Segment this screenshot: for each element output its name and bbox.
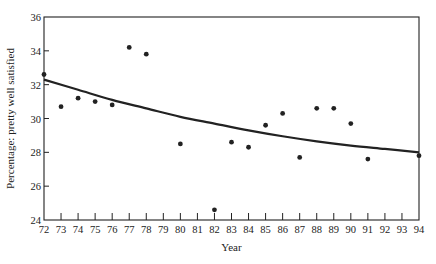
x-tick-label: 78	[141, 224, 152, 235]
data-point	[246, 145, 251, 150]
data-point	[127, 45, 132, 50]
plot-border	[44, 17, 419, 220]
scatter-chart: 24262830323436 7273747576777879808182838…	[0, 0, 436, 264]
data-point	[110, 103, 115, 108]
x-tick-label: 87	[294, 224, 305, 235]
data-point	[42, 72, 47, 77]
x-tick-label: 93	[397, 224, 408, 235]
y-tick-label: 34	[31, 46, 42, 57]
data-point	[297, 155, 302, 160]
x-tick-label: 77	[124, 224, 135, 235]
data-point	[348, 121, 353, 126]
y-tick-label: 32	[31, 80, 42, 91]
x-tick-label: 73	[56, 224, 67, 235]
data-point	[212, 207, 217, 212]
x-tick-label: 74	[73, 224, 84, 235]
x-tick-label: 72	[39, 224, 50, 235]
data-point	[59, 104, 64, 109]
data-point	[93, 99, 98, 104]
data-point	[417, 153, 422, 158]
x-tick-label: 76	[107, 224, 118, 235]
x-tick-label: 86	[277, 224, 288, 235]
data-point	[331, 106, 336, 111]
y-axis-ticks: 24262830323436	[31, 12, 50, 226]
data-point	[178, 141, 183, 146]
y-tick-label: 36	[31, 12, 42, 23]
y-axis-label: Percentage: pretty well satisfied	[4, 48, 16, 189]
data-point	[144, 52, 149, 57]
plot-frame	[44, 17, 419, 220]
x-tick-label: 91	[363, 224, 374, 235]
data-point	[263, 123, 268, 128]
x-tick-label: 92	[380, 224, 391, 235]
x-tick-label: 88	[311, 224, 322, 235]
data-point	[280, 111, 285, 116]
x-axis-label: Year	[221, 241, 242, 253]
x-tick-label: 82	[209, 224, 220, 235]
y-tick-label: 30	[31, 114, 42, 125]
x-tick-label: 89	[329, 224, 340, 235]
y-tick-label: 26	[31, 181, 42, 192]
data-point	[76, 96, 81, 101]
x-tick-label: 94	[414, 224, 425, 235]
x-tick-label: 80	[175, 224, 186, 235]
x-axis-ticks: 7273747576777879808182838485868788899091…	[39, 213, 425, 235]
data-point	[365, 157, 370, 162]
x-tick-label: 84	[243, 224, 254, 235]
y-tick-label: 28	[31, 147, 42, 158]
x-tick-label: 75	[90, 224, 101, 235]
x-tick-label: 81	[192, 224, 203, 235]
x-tick-label: 83	[226, 224, 237, 235]
data-point	[314, 106, 319, 111]
data-points	[42, 45, 422, 212]
x-tick-label: 90	[346, 224, 357, 235]
data-point	[229, 140, 234, 145]
x-tick-label: 85	[260, 224, 271, 235]
x-tick-label: 79	[158, 224, 169, 235]
